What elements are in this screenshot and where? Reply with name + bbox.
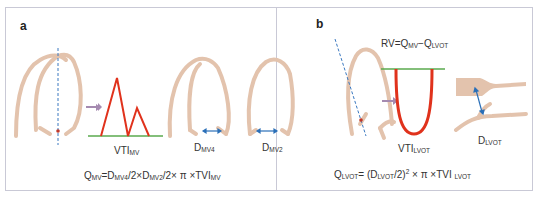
d-lvot-label: DLVOT — [478, 135, 502, 146]
sample-volume-dot — [56, 129, 60, 133]
heart-mv2-icon — [249, 60, 293, 134]
d-mv4-label: DMV4 — [194, 142, 215, 153]
sample-volume-dot-lvot — [359, 118, 363, 122]
mv-doppler-trace — [101, 78, 149, 136]
vti-mv-label: VTIMV — [114, 145, 139, 156]
rv-formula: RV=QMV−QLVOT — [381, 38, 448, 49]
lvot-closeup-icon — [456, 78, 526, 96]
qmv-formula: QMV=DMV4/2×DMV2/2× π ×TVIMV — [84, 170, 221, 181]
qlvot-formula: QLVOT= (DLVOT/2)2 × π ×TVI LVOT — [334, 168, 471, 180]
lvot-doppler-trace — [396, 69, 432, 134]
panel-label-b: b — [316, 17, 323, 31]
measure-mv2 — [257, 129, 277, 133]
measure-mv4 — [203, 129, 221, 133]
heart-mv4-icon — [170, 59, 229, 136]
heart-lvot-icon — [348, 49, 394, 138]
heart-4ch-icon — [16, 55, 81, 136]
panel-label-a: a — [20, 19, 27, 33]
d-mv2-label: DMV2 — [262, 142, 283, 153]
vti-lvot-label: VTILVOT — [398, 143, 430, 154]
